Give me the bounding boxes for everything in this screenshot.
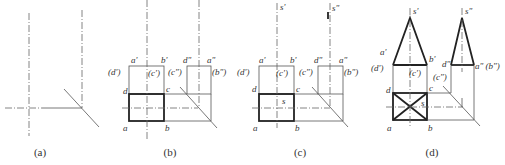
label-s: s — [282, 96, 286, 106]
label-s-dprime: s" — [332, 3, 340, 13]
label-d-prime: (d') — [108, 67, 120, 77]
label-s-prime: s' — [413, 6, 420, 16]
label-d: d — [252, 84, 257, 94]
label-c-dprime: (c") — [299, 67, 313, 77]
label-b-prime: b' — [429, 54, 437, 64]
label-a-prime: a' — [380, 47, 388, 57]
label-d-prime: (d') — [237, 67, 249, 77]
caption-c: (c) — [294, 146, 307, 159]
label-c-prime: (c') — [409, 68, 421, 78]
label-b: b — [295, 123, 300, 133]
label-b-prime: b' — [161, 55, 169, 65]
figure-b: a' b' (d') (c') d" a" (c") (b") d c a b … — [108, 0, 226, 159]
label-d-dprime: d" — [442, 59, 451, 69]
label-b-dprime: (b") — [212, 67, 226, 77]
label-c-dprime: (c") — [168, 67, 182, 77]
label-d-prime: (d') — [371, 63, 383, 73]
label-a-b-dprime: a" (b") — [475, 61, 500, 71]
label-a-dprime: a" — [207, 55, 216, 65]
label-c-prime: (c') — [276, 68, 288, 78]
plan-view-square — [129, 94, 164, 121]
label-d: d — [123, 86, 128, 96]
label-d-dprime: d" — [183, 55, 192, 65]
label-b-prime: b' — [290, 55, 298, 65]
label-s-dprime: s" — [465, 6, 473, 16]
label-b: b — [165, 123, 170, 133]
label-s: s — [421, 98, 425, 108]
label-d: d — [386, 85, 391, 95]
label-a: a — [253, 123, 258, 133]
caption-d: (d) — [426, 146, 439, 159]
label-a-prime: a' — [131, 55, 139, 65]
caption-b: (b) — [164, 146, 177, 159]
label-c: c — [296, 84, 300, 94]
plan-view-square — [259, 94, 294, 121]
label-a-prime: a' — [259, 55, 267, 65]
label-a: a — [387, 123, 392, 133]
side-view-outline — [318, 66, 343, 94]
figure-c: s' s" a' b' (d') (c') d" a" (c") (b") d … — [237, 2, 358, 159]
figure-d: s' s" a' b' (d') (c') d" a" (b") (c") d … — [371, 6, 500, 159]
label-a-dprime: a" — [339, 55, 348, 65]
side-view-pyramid-edges — [451, 18, 474, 65]
label-s-prime: s' — [280, 2, 287, 12]
45-degree-line — [180, 87, 217, 128]
projection-diagram: (a) a' b' (d') (c') d" a" (c") (b") d c … — [0, 0, 505, 165]
label-c: c — [429, 83, 433, 93]
label-d-dprime: d" — [314, 55, 323, 65]
label-c: c — [166, 84, 170, 94]
label-c-prime: (c') — [148, 68, 160, 78]
label-b-dprime: (b") — [344, 67, 358, 77]
label-a: a — [123, 123, 128, 133]
label-b: b — [428, 123, 433, 133]
figure-a: (a) — [5, 10, 99, 159]
caption-a: (a) — [34, 146, 47, 159]
label-c-dprime: (c") — [433, 72, 447, 82]
